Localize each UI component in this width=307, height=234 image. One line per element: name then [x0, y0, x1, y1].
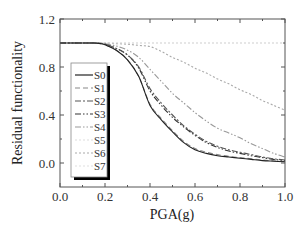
y-tick-label: 1.2	[39, 12, 55, 27]
x-tick-label: 1.0	[277, 189, 293, 204]
legend-label-s6: S6	[94, 147, 106, 159]
y-axis-title: Residual functionality	[10, 41, 25, 165]
y-tick-label: 0.4	[39, 108, 56, 123]
line-chart: 0.00.20.40.60.81.00.00.40.81.2 S0S1S2S3S…	[0, 0, 307, 234]
legend-label-s5: S5	[94, 134, 106, 146]
x-tick-label: 0.8	[232, 189, 248, 204]
x-axis-title: PGA(g)	[150, 207, 195, 223]
legend-label-s2: S2	[94, 95, 106, 107]
legend-label-s4: S4	[94, 121, 106, 133]
x-tick-label: 0.4	[142, 189, 159, 204]
x-tick-label: 0.2	[97, 189, 113, 204]
legend-label-s0: S0	[94, 69, 106, 81]
legend-label-s7: S7	[94, 160, 106, 172]
legend-label-s1: S1	[94, 82, 106, 94]
x-tick-label: 0.0	[52, 189, 68, 204]
legend-label-s3: S3	[94, 108, 106, 120]
legend: S0S1S2S3S4S5S6S7	[71, 63, 110, 180]
y-tick-label: 0.0	[39, 156, 55, 171]
x-tick-label: 0.6	[187, 189, 204, 204]
y-tick-label: 0.8	[39, 60, 55, 75]
